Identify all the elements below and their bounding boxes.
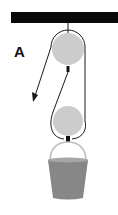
pull-arrow-icon xyxy=(32,92,38,102)
pulley-diagram-svg xyxy=(0,0,118,215)
diagram-label: A xyxy=(14,44,25,59)
rope-anchor-strand xyxy=(53,72,68,112)
movable-pulley xyxy=(53,106,83,136)
bucket xyxy=(48,160,88,200)
rope-pull-strand xyxy=(35,47,51,96)
fixed-pulley-anchor xyxy=(67,66,70,72)
pulley-diagram: A xyxy=(0,0,118,215)
bucket-rim xyxy=(48,158,88,163)
ceiling-beam xyxy=(11,12,118,23)
movable-pulley-hook xyxy=(66,136,70,142)
fixed-pulley xyxy=(52,33,84,65)
